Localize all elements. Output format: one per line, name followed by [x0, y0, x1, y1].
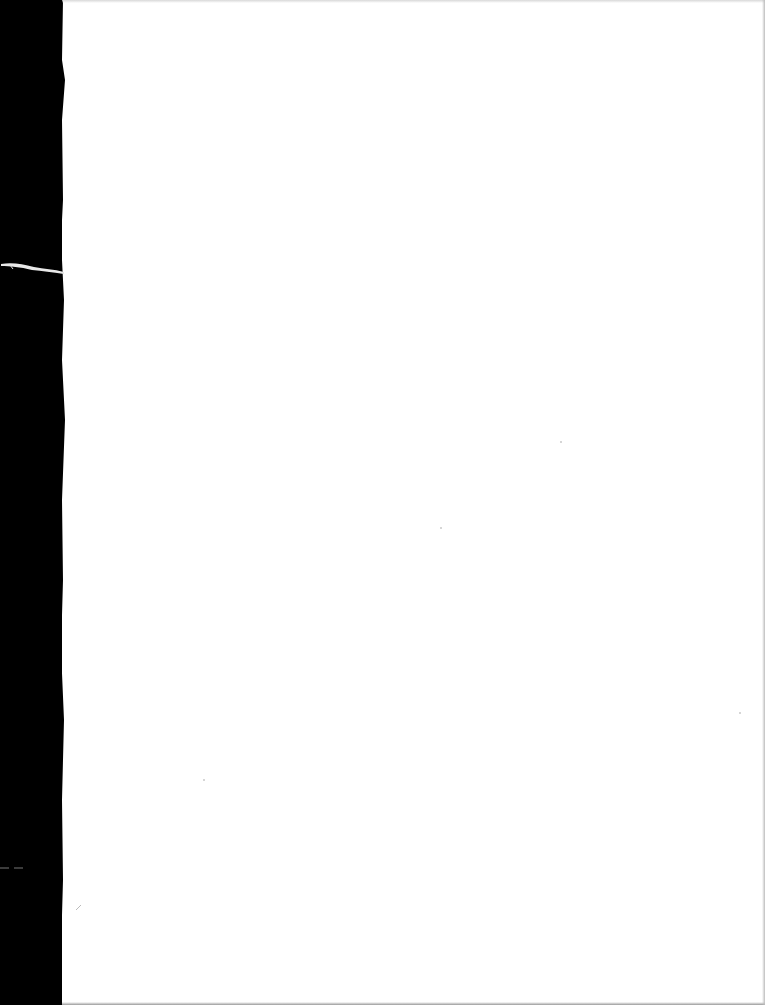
scanned-page [0, 0, 765, 1005]
paper-sheet [62, 0, 765, 1005]
scan-speck [203, 779, 205, 781]
scanner-black-margin [0, 0, 62, 1005]
paper-tear-mark [0, 258, 66, 274]
scan-speck [739, 712, 741, 714]
margin-dash-mark [0, 867, 24, 869]
page-content [124, 0, 765, 1005]
scan-speck [560, 441, 562, 443]
pencil-mark [76, 905, 82, 911]
scan-speck [440, 527, 442, 529]
top-edge-shadow [62, 0, 765, 3]
ragged-paper-edge [60, 0, 66, 1005]
